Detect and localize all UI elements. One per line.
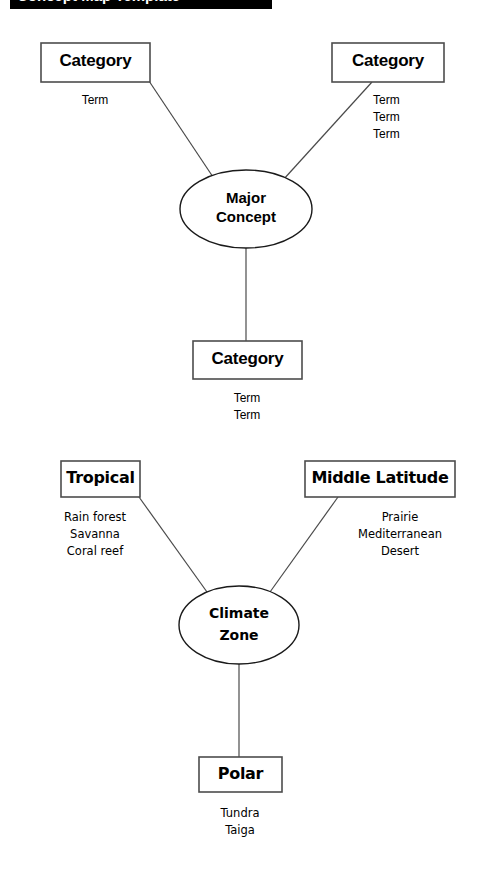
terms-category-bottom-2: Term (197, 407, 297, 424)
box-label-tropical: Tropical (61, 469, 140, 487)
terms-middle-latitude-3: Desert (330, 543, 470, 559)
ellipse-climate-zone (179, 586, 299, 664)
link-upper-right (283, 82, 372, 180)
ellipse-label-major: Major (180, 189, 312, 206)
terms-polar-1: Tundra (190, 805, 290, 821)
terms-tropical-3: Coral reef (45, 543, 145, 559)
terms-tropical-2: Savanna (45, 526, 145, 542)
terms-middle-latitude-2: Mediterranean (330, 526, 470, 542)
terms-category-upper-right-2: Term (373, 109, 453, 126)
link-climate-upper-left (139, 497, 207, 592)
concept-map-page: Concept Map Template Category Term Categ… (0, 0, 479, 880)
box-label-category-upper-left: Category (41, 51, 150, 70)
ellipse-label-concept: Concept (180, 208, 312, 225)
ellipse-label-climate: Climate (179, 605, 299, 622)
terms-category-upper-left: Term (45, 92, 145, 109)
link-climate-upper-right (270, 497, 338, 592)
terms-category-upper-right-3: Term (373, 126, 453, 143)
box-label-category-upper-right: Category (332, 51, 444, 70)
terms-category-upper-right-1: Term (373, 92, 453, 109)
link-upper-left (149, 81, 215, 180)
terms-tropical-1: Rain forest (45, 509, 145, 525)
terms-category-bottom-1: Term (197, 390, 297, 407)
terms-polar-2: Taiga (190, 822, 290, 838)
box-label-middle-latitude: Middle Latitude (305, 469, 455, 487)
terms-middle-latitude-1: Prairie (330, 509, 470, 525)
box-label-polar: Polar (199, 765, 282, 783)
ellipse-label-zone: Zone (179, 627, 299, 644)
box-label-category-bottom: Category (193, 349, 302, 368)
